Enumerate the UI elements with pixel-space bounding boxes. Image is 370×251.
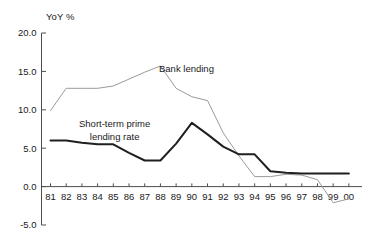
x-tick-label: 95 [265, 191, 276, 202]
series-label-bank-lending-line-1: Bank lending [159, 63, 214, 76]
x-tick-label: 94 [249, 191, 260, 202]
y-tick-label: 15.0 [18, 66, 37, 77]
x-tick-label: 92 [218, 191, 229, 202]
x-tick-label: 84 [92, 191, 103, 202]
x-tick-label: 86 [124, 191, 135, 202]
x-tick-label: 96 [281, 191, 292, 202]
series-label-prime-rate-line-2: lending rate [79, 131, 150, 144]
x-tick-label: 87 [139, 191, 150, 202]
x-tick-label: 88 [155, 191, 166, 202]
x-tick-label: 89 [171, 191, 182, 202]
y-tick-label: 20.0 [18, 27, 37, 38]
y-tick-label: 5.0 [23, 143, 36, 154]
x-tick-label: 99 [328, 191, 339, 202]
x-tick-label: 81 [45, 191, 56, 202]
x-tick-label: 98 [312, 191, 323, 202]
chart-container: YoY % 20.015.010.05.00.0-5.0 81828384858… [0, 0, 370, 251]
x-tick-label: 85 [108, 191, 119, 202]
series-label-bank-lending: Bank lending [159, 63, 214, 76]
y-axis: 20.015.010.05.00.0-5.0 [18, 27, 46, 230]
series-label-prime-rate: Short-term prime lending rate [79, 118, 150, 143]
x-tick-label: 82 [61, 191, 72, 202]
x-tick-label: 83 [77, 191, 88, 202]
x-tick-label: 93 [234, 191, 245, 202]
y-tick-label: -5.0 [20, 219, 36, 230]
x-tick-label: 90 [187, 191, 198, 202]
x-tick-label: 97 [296, 191, 307, 202]
y-tick-label: 10.0 [18, 104, 37, 115]
y-tick-label: 0.0 [23, 181, 36, 192]
x-tick-label: 91 [202, 191, 213, 202]
line-chart-plot: 20.015.010.05.00.0-5.0 81828384858687888… [0, 0, 370, 251]
series-label-prime-rate-line-1: Short-term prime [79, 118, 150, 131]
x-axis: 8182838485868788899091929394959697989900 [42, 183, 363, 201]
